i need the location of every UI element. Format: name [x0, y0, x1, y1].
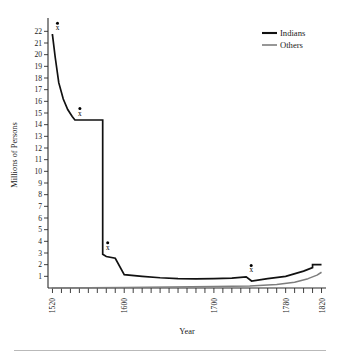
x-axis-tick-label: 1780: [282, 298, 291, 313]
y-axis-tick-label: 14: [34, 120, 42, 129]
legend-label-indians: Indians: [280, 28, 306, 38]
y-axis-tick-label: 9: [38, 179, 42, 188]
x-axis-tick-label: 1820: [318, 298, 327, 313]
y-axis-tick-label: 4: [38, 237, 42, 246]
marker-x-label: x: [249, 266, 253, 274]
epidemic-marker: x: [249, 264, 253, 275]
chart-legend: IndiansOthers: [262, 28, 306, 50]
chart-figure: 1234567891011121314151617181920212215201…: [0, 0, 339, 358]
y-axis-tick-label: 2: [38, 260, 42, 269]
marker-x-label: x: [56, 24, 60, 32]
y-axis-tick-label: 11: [35, 155, 43, 164]
y-axis-title: Millions of Persons: [10, 122, 19, 188]
population-line-chart: 1234567891011121314151617181920212215201…: [0, 0, 339, 358]
y-axis-tick-label: 5: [38, 225, 42, 234]
y-axis-tick-label: 7: [38, 202, 42, 211]
y-axis-tick-label: 19: [34, 62, 42, 71]
y-axis-tick-label: 21: [34, 39, 42, 48]
y-axis-tick-label: 8: [38, 190, 42, 199]
epidemic-marker: x: [78, 107, 82, 118]
footer-divider: [14, 350, 326, 351]
y-axis-tick-label: 13: [34, 132, 42, 141]
y-axis-tick-label: 12: [34, 144, 42, 153]
x-axis-tick-label: 1520: [48, 298, 57, 313]
x-axis-tick-label: 1600: [120, 298, 129, 313]
y-axis-tick-label: 16: [34, 97, 42, 106]
y-axis-tick-label: 6: [38, 214, 42, 223]
y-axis-tick-label: 10: [34, 167, 42, 176]
epidemic-marker: x: [106, 241, 110, 252]
y-axis-tick-label: 22: [34, 27, 42, 36]
y-axis-tick-label: 15: [34, 109, 42, 118]
legend-label-others: Others: [280, 40, 304, 50]
x-axis-title: Year: [179, 327, 195, 336]
marker-x-label: x: [106, 244, 110, 252]
y-axis-tick-label: 1: [38, 272, 42, 281]
epidemic-marker: x: [56, 22, 60, 33]
y-axis-tick-label: 18: [34, 74, 42, 83]
series-line-others: [52, 272, 322, 288]
y-axis-tick-label: 20: [34, 50, 42, 59]
y-axis-tick-label: 3: [38, 249, 42, 258]
y-axis-tick-label: 17: [34, 85, 42, 94]
series-line-indians: [52, 35, 322, 281]
marker-x-label: x: [78, 110, 82, 118]
x-axis-tick-label: 1700: [210, 298, 219, 313]
